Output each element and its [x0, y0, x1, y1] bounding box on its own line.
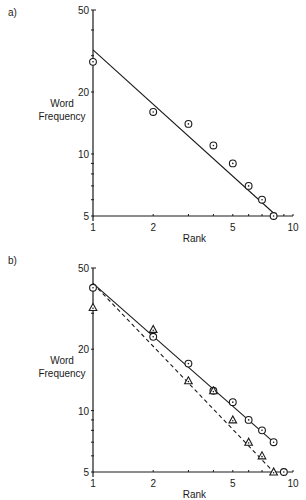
rank-frequency-figure: a)510205012510RankWordFrequencyb)5102050… — [0, 0, 306, 500]
x-tick-label: 2 — [150, 222, 156, 233]
y-axis-label: Frequency — [38, 111, 85, 122]
data-point-triangle — [245, 438, 253, 445]
x-tick-label: 10 — [287, 478, 299, 489]
data-point-triangle — [229, 416, 237, 423]
y-tick-label: 20 — [78, 87, 90, 98]
x-axis-label: Rank — [183, 233, 207, 244]
x-tick-label: 5 — [230, 222, 236, 233]
y-tick-label: 50 — [78, 5, 90, 16]
panel-label: a) — [8, 7, 17, 18]
x-tick-label: 10 — [287, 222, 299, 233]
y-tick-label: 5 — [83, 467, 89, 478]
x-tick-label: 1 — [90, 222, 96, 233]
panel-b: b)510205012510RankWordFrequency — [8, 255, 299, 500]
y-tick-label: 20 — [78, 344, 90, 355]
x-axis-label: Rank — [183, 489, 207, 500]
y-axis-label: Frequency — [38, 368, 85, 379]
fit-line — [93, 50, 277, 216]
x-tick-label: 2 — [150, 478, 156, 489]
y-tick-label: 50 — [78, 263, 90, 274]
panel-label: b) — [8, 255, 17, 266]
x-tick-label: 5 — [230, 478, 236, 489]
y-axis-label: Word — [50, 355, 74, 366]
y-tick-label: 10 — [78, 406, 90, 417]
data-point-triangle — [258, 452, 266, 459]
data-point-triangle — [89, 304, 97, 311]
data-point-triangle — [149, 325, 157, 332]
panel-a: a)510205012510RankWordFrequency — [8, 5, 299, 244]
y-tick-label: 10 — [78, 149, 90, 160]
y-axis-label: Word — [50, 98, 74, 109]
y-tick-label: 5 — [83, 211, 89, 222]
x-tick-label: 1 — [90, 478, 96, 489]
